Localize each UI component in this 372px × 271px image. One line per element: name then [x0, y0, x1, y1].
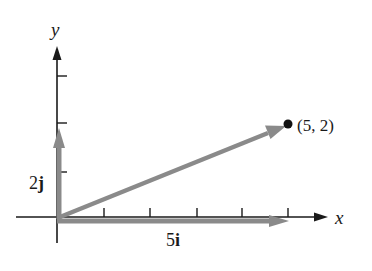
y-axis-arrow-icon [53, 46, 62, 60]
x-axis-ticks [104, 208, 288, 217]
vector-5i-unit: i [175, 230, 180, 250]
vector-2j-unit: j [37, 173, 44, 193]
x-axis-label: x [334, 207, 344, 228]
vector-2j [53, 128, 65, 219]
vector-resultant [60, 126, 286, 218]
vector-diagram: x y (5, 2) 2j 5i [0, 0, 372, 271]
x-axis-arrow-icon [314, 213, 328, 222]
vector-2j-arrowhead-icon [53, 128, 65, 148]
vector-2j-coef: 2 [29, 173, 38, 193]
vector-2j-label: 2j [29, 173, 44, 193]
vector-5i-coef: 5 [166, 230, 175, 250]
vector-resultant-arrowhead-icon [265, 126, 286, 140]
y-axis-label: y [49, 19, 60, 40]
point-marker [284, 120, 293, 129]
vector-5i-label: 5i [166, 230, 180, 250]
point-label: (5, 2) [297, 116, 334, 135]
